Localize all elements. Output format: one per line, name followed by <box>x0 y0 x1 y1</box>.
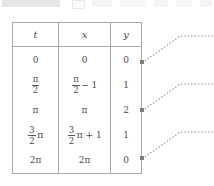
connector-path <box>145 132 214 157</box>
math-t-2: π <box>33 106 39 115</box>
cell-t-3: 32π <box>13 123 59 148</box>
column-header-y: y <box>111 23 142 47</box>
math-x-3: 32π + 1 <box>67 126 101 146</box>
column-header-x: x <box>59 23 111 47</box>
connector-path <box>145 84 214 109</box>
chrome-tool-2[interactable] <box>120 0 146 7</box>
fraction-numerator: 3 <box>68 126 75 136</box>
cell-y-1: 1 <box>111 72 142 97</box>
fraction: 32 <box>28 126 35 146</box>
expression-tail: − 1 <box>81 81 97 90</box>
math-x-4: 2π <box>79 156 91 165</box>
app-chrome-strip <box>0 0 214 13</box>
math-x-1: π2− 1 <box>72 75 98 95</box>
header-symbol-x: x <box>82 29 88 40</box>
connector-row-2 <box>140 84 214 112</box>
fraction: π2 <box>32 75 40 95</box>
connector-row-4 <box>140 132 214 160</box>
parametric-values-table: t x y 0 0 0 π2 π2− 1 1 π π 2 32π 32π + <box>12 22 142 174</box>
header-symbol-y: y <box>123 29 129 40</box>
table-row: π2 π2− 1 1 <box>13 72 142 97</box>
fraction-numerator: π <box>72 75 80 85</box>
math-t-4: 2π <box>30 156 42 165</box>
cell-y-0: 0 <box>111 47 142 73</box>
math-t-0: 0 <box>33 56 39 65</box>
chrome-page-box[interactable] <box>72 0 85 9</box>
cell-t-1: π2 <box>13 72 59 97</box>
math-x-0: 0 <box>82 56 88 65</box>
fraction: 32 <box>68 126 75 146</box>
fraction-numerator: 3 <box>28 126 35 136</box>
table-row: 32π 32π + 1 1 <box>13 123 142 148</box>
chrome-tool-3[interactable] <box>154 0 168 7</box>
cell-x-4: 2π <box>59 148 111 174</box>
table-header-row: t x y <box>13 23 142 47</box>
column-header-t: t <box>13 23 59 47</box>
table-row: π π 2 <box>13 97 142 122</box>
connector-row-0 <box>140 36 214 64</box>
connector-path <box>145 36 214 61</box>
fraction-denominator: 2 <box>28 136 35 145</box>
cell-t-4: 2π <box>13 148 59 174</box>
cell-t-2: π <box>13 97 59 122</box>
cell-x-1: π2− 1 <box>59 72 111 97</box>
chrome-tool-4[interactable] <box>176 0 192 7</box>
cell-y-3: 1 <box>111 123 142 148</box>
cell-t-0: 0 <box>13 47 59 73</box>
expression-tail: π <box>37 131 43 140</box>
cell-y-4: 0 <box>111 148 142 174</box>
math-t-3: 32π <box>28 126 43 146</box>
fraction-numerator: π <box>32 75 40 85</box>
fraction-denominator: 2 <box>32 86 39 95</box>
expression-tail: π + 1 <box>77 131 102 140</box>
math-t-1: π2 <box>31 75 40 95</box>
math-x-2: π <box>82 106 88 115</box>
cell-y-2: 2 <box>111 97 142 122</box>
table-row: 0 0 0 <box>13 47 142 73</box>
fraction: π2 <box>72 75 80 95</box>
chrome-tool-1[interactable] <box>92 0 112 7</box>
fraction-denominator: 2 <box>68 136 75 145</box>
cell-x-0: 0 <box>59 47 111 73</box>
fraction-denominator: 2 <box>72 86 79 95</box>
table-row: 2π 2π 0 <box>13 148 142 174</box>
cell-x-3: 32π + 1 <box>59 123 111 148</box>
chrome-tool-5[interactable] <box>200 0 212 7</box>
chrome-toolbar-pill[interactable] <box>2 0 60 7</box>
cell-x-2: π <box>59 97 111 122</box>
header-symbol-t: t <box>33 29 37 40</box>
